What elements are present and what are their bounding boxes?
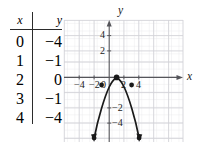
y-axis-label: y (118, 4, 123, 16)
x-tick-label-0: 0 (101, 79, 106, 90)
graph-svg (0, 0, 202, 149)
point-0--4 (92, 136, 97, 141)
point-4--4 (137, 136, 142, 141)
y-tick-label--4: −4 (112, 117, 123, 128)
y-tick-label-2: 2 (100, 45, 105, 56)
y-tick-label-4: 4 (100, 29, 105, 40)
point-2-0 (114, 75, 120, 81)
x-tick-label--2: −2 (89, 79, 100, 90)
point-3--1 (129, 83, 134, 88)
x-tick-label-2: 2 (121, 79, 126, 90)
x-tick-label--4: −4 (74, 79, 85, 90)
x-axis-label: x (187, 70, 192, 82)
y-tick-label--2: −2 (112, 102, 123, 113)
x-tick-label-4: 4 (136, 79, 141, 90)
coordinate-graph: y x −4 −2 0 2 4 4 2 −2 −4 (0, 0, 202, 149)
figure-root: x y 0 −4 1 −1 2 0 3 −1 4 −4 (0, 0, 202, 149)
